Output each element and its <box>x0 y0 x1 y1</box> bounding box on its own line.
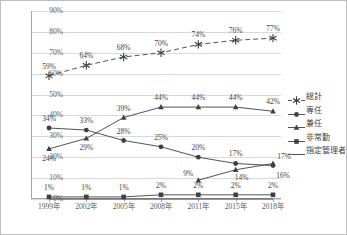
data-label-total: 76% <box>229 27 243 35</box>
legend-label: 非常勤 <box>306 131 330 142</box>
data-label-total: 68% <box>117 44 131 52</box>
data-label-sennin: 16% <box>276 172 290 180</box>
data-label-kennin: 44% <box>229 94 243 102</box>
y-axis-tick-label: 90% <box>37 7 63 15</box>
data-label-kennin: 39% <box>117 105 131 113</box>
兼任-line <box>49 107 273 149</box>
legend-item-0[interactable]: 総計 <box>288 89 347 103</box>
data-label-kennin: 44% <box>191 94 205 102</box>
legend-marker-icon <box>288 132 305 141</box>
data-label-hijokin: 1% <box>44 184 54 192</box>
兼任-marker <box>84 135 90 140</box>
y-axis-tick-label: 60% <box>37 70 63 78</box>
data-label-total: 77% <box>266 25 280 33</box>
legend-item-4[interactable]: 指定管理者 <box>288 143 347 157</box>
非常勤-marker <box>121 195 126 200</box>
chart-container: 59%64%68%70%74%76%77%34%33%28%25%20%17%1… <box>0 0 347 235</box>
legend-item-2[interactable]: 兼任 <box>288 116 347 130</box>
専任-marker <box>233 161 238 166</box>
plot-area: 59%64%68%70%74%76%77%34%33%28%25%20%17%1… <box>31 11 281 199</box>
兼任-late-marker <box>270 160 276 165</box>
専任-marker <box>121 138 126 143</box>
総計-marker <box>120 53 127 61</box>
data-label-sennin: 20% <box>191 144 205 152</box>
data-label-kennin: 29% <box>79 145 93 153</box>
総計-marker <box>83 61 90 69</box>
専任-marker <box>159 144 164 149</box>
data-label-sennin: 28% <box>117 128 131 136</box>
非常勤-marker <box>233 193 238 198</box>
legend-label: 専任 <box>306 104 322 115</box>
y-axis-tick-label: 70% <box>37 49 63 57</box>
y-axis-tick-label: 10% <box>37 174 63 182</box>
data-label-hijokin: 2% <box>156 182 166 190</box>
data-label-hijokin: 2% <box>193 182 203 190</box>
legend-item-1[interactable]: 専任 <box>288 103 347 117</box>
非常勤-marker <box>271 193 276 198</box>
data-label-hijokin: 1% <box>119 184 129 192</box>
y-axis-tick-label: 30% <box>37 132 63 140</box>
x-axis-tick-label: 2018年 <box>251 203 295 211</box>
legend-label: 指定管理者 <box>306 144 346 155</box>
data-label-total: 74% <box>191 32 205 40</box>
data-label-hijokin: 2% <box>231 182 241 190</box>
非常勤-marker <box>84 195 89 200</box>
data-label-total: 64% <box>79 53 93 61</box>
data-label-hijokin: 2% <box>268 182 278 190</box>
非常勤-marker <box>196 193 201 198</box>
data-label-sennin: 17% <box>229 151 243 159</box>
data-label-branch: 9% <box>183 170 193 178</box>
y-axis-tick-label: 20% <box>37 153 63 161</box>
legend-item-3[interactable]: 非常勤 <box>288 130 347 144</box>
専任-marker <box>196 155 201 160</box>
legend-label: 総計 <box>306 90 322 101</box>
legend-marker-icon <box>288 145 305 154</box>
data-label-sennin: 25% <box>154 134 168 142</box>
専任-marker <box>47 126 52 131</box>
legend-marker-icon <box>288 91 305 100</box>
chart-legend: 総計専任兼任非常勤指定管理者 <box>288 89 347 157</box>
専任-marker <box>84 128 89 133</box>
data-label-branch: 14% <box>235 174 249 182</box>
y-axis-tick-label: 50% <box>37 91 63 99</box>
y-axis-tick-label: 40% <box>37 111 63 119</box>
y-axis-tick-label: 80% <box>37 28 63 36</box>
data-label-total: 70% <box>154 40 168 48</box>
data-label-hijokin: 1% <box>81 184 91 192</box>
legend-marker-icon <box>288 118 305 127</box>
legend-marker-icon <box>288 105 305 114</box>
legend-label: 兼任 <box>306 117 322 128</box>
非常勤-marker <box>159 193 164 198</box>
data-label-sennin: 33% <box>79 117 93 125</box>
data-label-kennin: 42% <box>266 99 280 107</box>
data-label-kennin: 44% <box>154 94 168 102</box>
